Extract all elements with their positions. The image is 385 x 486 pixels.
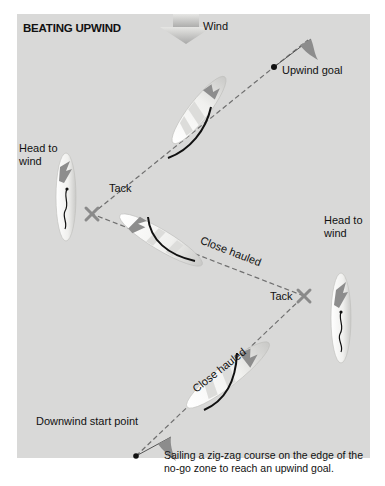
head-to-wind-left-line2: wind — [19, 155, 58, 168]
tack-left-label: Tack — [109, 182, 132, 195]
head-to-wind-right-line2: wind — [324, 227, 363, 240]
wind-label: Wind — [203, 20, 228, 33]
boat-upper-close-hauled-icon — [165, 71, 232, 150]
tack-right-label: Tack — [270, 290, 293, 303]
caption: Sailing a zig-zag course on the edge of … — [164, 449, 363, 475]
boat-middle-close-hauled-icon — [115, 207, 208, 274]
boat-lower-close-hauled-icon — [180, 334, 275, 415]
head-to-wind-right-label: Head to wind — [324, 214, 363, 240]
downwind-start-label: Downwind start point — [36, 415, 138, 428]
diagram-title: BEATING UPWIND — [23, 22, 121, 35]
caption-line1: Sailing a zig-zag course on the edge of … — [164, 449, 363, 462]
head-to-wind-left-label: Head to wind — [19, 142, 58, 168]
upwind-goal-label: Upwind goal — [282, 64, 343, 77]
head-to-wind-left-line1: Head to — [19, 142, 58, 155]
tack-right-icon — [298, 290, 310, 302]
caption-line2: no-go zone to reach an upwind goal. — [164, 462, 363, 475]
boat-head-to-wind-right-icon — [331, 273, 351, 363]
boat-head-to-wind-left-icon — [56, 153, 76, 241]
head-to-wind-right-line1: Head to — [324, 214, 363, 227]
tack-left-icon — [86, 208, 98, 220]
